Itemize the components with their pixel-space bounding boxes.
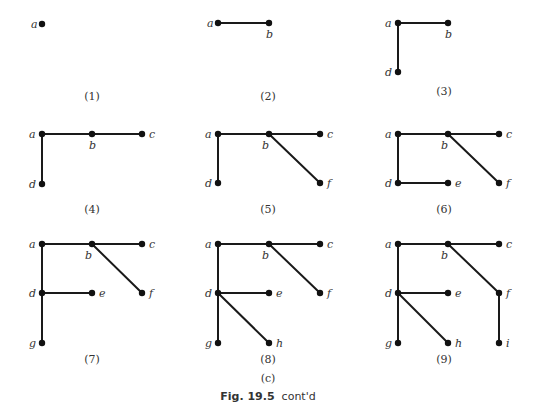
panel-caption: (2) bbox=[260, 90, 276, 103]
figure-caption-spacer bbox=[275, 390, 282, 403]
vertex-d bbox=[395, 290, 401, 296]
edge-b-f bbox=[448, 134, 499, 183]
vertex-label-b: b bbox=[441, 249, 448, 262]
vertex-c bbox=[139, 241, 145, 247]
vertex-a bbox=[215, 131, 221, 137]
vertex-g bbox=[39, 340, 45, 346]
vertex-b bbox=[89, 131, 95, 137]
panel-caption: (8) bbox=[260, 353, 276, 366]
panel-caption: (3) bbox=[436, 85, 452, 98]
vertex-d bbox=[395, 69, 401, 75]
vertex-f bbox=[139, 290, 145, 296]
vertex-label-b: b bbox=[445, 28, 452, 41]
vertex-label-c: c bbox=[149, 238, 155, 251]
graph-canvas: a(1)ab(2)abd(3)abcd(4)abcdf(5)abcdef(6)a… bbox=[0, 0, 534, 414]
vertex-label-a: a bbox=[29, 128, 36, 141]
vertex-a bbox=[395, 241, 401, 247]
vertex-label-c: c bbox=[149, 128, 155, 141]
vertex-g bbox=[215, 340, 221, 346]
vertex-f bbox=[317, 180, 323, 186]
vertex-label-e: e bbox=[455, 287, 462, 300]
vertex-label-a: a bbox=[385, 128, 392, 141]
vertex-label-d: d bbox=[385, 287, 392, 300]
vertex-d bbox=[215, 180, 221, 186]
edge-b-f bbox=[269, 244, 320, 293]
vertex-label-a: a bbox=[205, 238, 212, 251]
vertex-label-e: e bbox=[276, 287, 283, 300]
vertex-b bbox=[266, 131, 272, 137]
vertex-label-a: a bbox=[385, 238, 392, 251]
vertex-label-a: a bbox=[205, 128, 212, 141]
vertex-f bbox=[317, 290, 323, 296]
graph-panel-3: abd(3) bbox=[385, 17, 452, 98]
vertex-label-c: c bbox=[506, 238, 512, 251]
edge-b-f bbox=[448, 244, 499, 293]
vertex-c bbox=[496, 131, 502, 137]
panel-caption: (9) bbox=[436, 353, 452, 366]
vertex-c bbox=[317, 131, 323, 137]
vertex-i bbox=[496, 340, 502, 346]
vertex-a bbox=[215, 20, 221, 26]
vertex-label-f: f bbox=[148, 287, 155, 300]
vertex-label-g: g bbox=[385, 337, 392, 350]
vertex-f bbox=[496, 180, 502, 186]
graph-panel-6: abcdef(6) bbox=[385, 128, 512, 216]
graph-panel-2: ab(2) bbox=[207, 17, 276, 103]
graph-panel-1: a(1) bbox=[31, 18, 100, 103]
vertex-label-e: e bbox=[455, 177, 462, 190]
vertex-c bbox=[317, 241, 323, 247]
graph-panel-7: abcdefg(7) bbox=[29, 238, 155, 366]
vertex-label-d: d bbox=[385, 66, 392, 79]
vertex-b bbox=[266, 20, 272, 26]
graph-panel-8: abcdefgh(8) bbox=[205, 238, 333, 366]
edge-d-h bbox=[218, 293, 269, 343]
vertex-e bbox=[445, 180, 451, 186]
figure-caption-number: Fig. 19.5 bbox=[220, 390, 274, 403]
vertex-label-b: b bbox=[85, 249, 92, 262]
vertex-label-f: f bbox=[326, 177, 333, 190]
vertex-b bbox=[89, 241, 95, 247]
spanning-tree-figure: a(1)ab(2)abd(3)abcd(4)abcdf(5)abcdef(6)a… bbox=[0, 0, 534, 414]
vertex-d bbox=[215, 290, 221, 296]
panel-caption: (1) bbox=[84, 90, 100, 103]
vertex-a bbox=[215, 241, 221, 247]
vertex-label-f: f bbox=[326, 287, 333, 300]
figure-caption: Fig. 19.5 cont'd bbox=[220, 390, 315, 403]
vertex-label-d: d bbox=[29, 287, 36, 300]
panel-caption: (4) bbox=[84, 203, 100, 216]
vertex-b bbox=[445, 131, 451, 137]
vertex-label-b: b bbox=[441, 139, 448, 152]
vertex-label-e: e bbox=[99, 287, 106, 300]
vertex-label-f: f bbox=[505, 287, 512, 300]
panel-caption: (7) bbox=[84, 353, 100, 366]
vertex-label-a: a bbox=[207, 17, 214, 30]
graph-panel-9: abcdefghi(9) bbox=[385, 238, 512, 366]
vertex-label-g: g bbox=[205, 337, 212, 350]
figure-caption-suffix: cont'd bbox=[282, 390, 316, 403]
vertex-b bbox=[445, 20, 451, 26]
vertex-label-d: d bbox=[205, 177, 212, 190]
vertex-label-b: b bbox=[89, 139, 96, 152]
vertex-label-c: c bbox=[327, 238, 333, 251]
vertex-e bbox=[266, 290, 272, 296]
vertex-label-i: i bbox=[506, 337, 510, 350]
edge-b-f bbox=[269, 134, 320, 183]
vertex-label-d: d bbox=[205, 287, 212, 300]
vertex-label-a: a bbox=[29, 238, 36, 251]
vertex-a bbox=[39, 131, 45, 137]
vertex-label-h: h bbox=[276, 337, 283, 350]
vertex-f bbox=[496, 290, 502, 296]
vertex-a bbox=[395, 20, 401, 26]
vertex-e bbox=[89, 290, 95, 296]
vertex-a bbox=[39, 21, 45, 27]
vertex-a bbox=[395, 131, 401, 137]
edge-b-f bbox=[92, 244, 142, 293]
panel-caption: (6) bbox=[436, 203, 452, 216]
vertex-label-c: c bbox=[506, 128, 512, 141]
vertex-label-b: b bbox=[266, 28, 273, 41]
graph-panel-4: abcd(4) bbox=[29, 128, 155, 216]
vertex-label-b: b bbox=[262, 139, 269, 152]
vertex-label-f: f bbox=[505, 177, 512, 190]
vertex-b bbox=[266, 241, 272, 247]
vertex-e bbox=[445, 290, 451, 296]
